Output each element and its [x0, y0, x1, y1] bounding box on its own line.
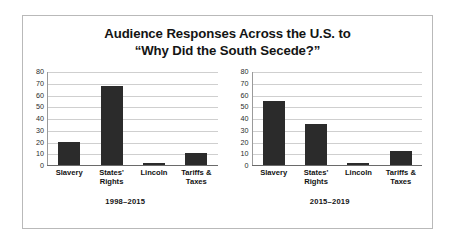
charts-container: 80 70 60 50 40 30 20 10 0: [23, 66, 432, 226]
x-label-slavery: Slavery: [48, 168, 90, 186]
y-tick-20: 20: [241, 139, 249, 146]
figure-page: Audience Responses Across the U.S. to “W…: [0, 0, 457, 243]
bar-slavery: [58, 142, 80, 165]
y-tick-50: 50: [241, 104, 249, 111]
y-tick-40: 40: [36, 115, 44, 122]
x-axis-line: [47, 165, 218, 166]
y-tick-0: 0: [245, 162, 249, 169]
y-tick-10: 10: [36, 151, 44, 158]
y-tick-40: 40: [241, 115, 249, 122]
x-labels-1998-2015: Slavery States' Rights Lincoln Tariffs &…: [48, 168, 218, 186]
plot-area-2015-2019: 80 70 60 50 40 30 20 10 0: [252, 72, 423, 166]
bars-2015-2019: [253, 72, 423, 165]
chart-period-1998-2015: 1998–2015: [23, 197, 228, 206]
y-tick-60: 60: [241, 92, 249, 99]
x-labels-2015-2019: Slavery States' Rights Lincoln Tariffs &…: [253, 168, 423, 186]
y-tick-30: 30: [241, 127, 249, 134]
y-tick-80: 80: [36, 68, 44, 75]
y-tick-70: 70: [36, 80, 44, 87]
x-label-tariffs-taxes: Tariffs & Taxes: [175, 168, 217, 186]
x-label-tariffs-taxes: Tariffs & Taxes: [380, 168, 422, 186]
y-tick-20: 20: [36, 139, 44, 146]
x-label-states-rights: States' Rights: [295, 168, 337, 186]
bar-slot-tariffs-taxes: [175, 72, 217, 165]
figure-title-line-1: Audience Responses Across the U.S. to: [23, 25, 432, 42]
y-tick-50: 50: [36, 104, 44, 111]
figure-title-line-2: “Why Did the South Secede?”: [23, 42, 432, 59]
bar-states-rights: [305, 124, 327, 165]
bar-lincoln: [143, 163, 165, 165]
figure-title: Audience Responses Across the U.S. to “W…: [23, 25, 432, 59]
plot-area-1998-2015: 80 70 60 50 40 30 20 10 0: [47, 72, 218, 166]
bar-slot-states-rights: [90, 72, 132, 165]
bar-tariffs-taxes: [185, 153, 207, 165]
y-tick-60: 60: [36, 92, 44, 99]
bar-tariffs-taxes: [390, 151, 412, 165]
bar-slot-states-rights: [295, 72, 337, 165]
x-label-states-rights: States' Rights: [90, 168, 132, 186]
bars-1998-2015: [48, 72, 218, 165]
bar-slot-slavery: [48, 72, 90, 165]
bar-slot-slavery: [253, 72, 295, 165]
chart-period-2015-2019: 2015–2019: [228, 197, 433, 206]
y-tick-0: 0: [40, 162, 44, 169]
chart-2015-2019: 80 70 60 50 40 30 20 10 0: [228, 66, 433, 226]
y-tick-80: 80: [241, 68, 249, 75]
x-label-slavery: Slavery: [253, 168, 295, 186]
bar-lincoln: [347, 163, 369, 165]
x-label-lincoln: Lincoln: [133, 168, 175, 186]
chart-1998-2015: 80 70 60 50 40 30 20 10 0: [23, 66, 228, 226]
bar-states-rights: [101, 86, 123, 165]
y-tick-10: 10: [241, 151, 249, 158]
bar-slot-tariffs-taxes: [380, 72, 422, 165]
y-tick-30: 30: [36, 127, 44, 134]
figure-card: Audience Responses Across the U.S. to “W…: [22, 15, 433, 229]
bar-slavery: [263, 101, 285, 165]
bar-slot-lincoln: [337, 72, 379, 165]
x-label-lincoln: Lincoln: [337, 168, 379, 186]
bar-slot-lincoln: [133, 72, 175, 165]
x-axis-line: [252, 165, 423, 166]
y-tick-70: 70: [241, 80, 249, 87]
